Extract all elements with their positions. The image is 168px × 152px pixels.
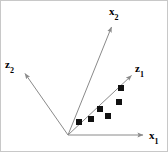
axis-label-x1-base: x: [149, 129, 155, 141]
data-point-marker: [97, 106, 103, 112]
axis-label-x2-base: x: [109, 5, 115, 17]
axis-label-z1: z1: [135, 63, 144, 77]
data-point-marker: [105, 113, 111, 119]
axis-label-z2: z2: [5, 59, 14, 73]
z2-axis-line: [25, 74, 68, 136]
data-point-marker: [118, 85, 124, 91]
z1-axis-line: [68, 76, 132, 136]
axis-label-z1-subscript: 1: [140, 70, 144, 79]
axis-label-x2: x2: [109, 6, 119, 20]
data-point-marker: [116, 99, 122, 105]
axis-label-z2-subscript: 2: [10, 66, 14, 75]
axis-label-x1-subscript: 1: [155, 137, 159, 146]
data-point-marker: [76, 119, 82, 125]
axis-lines-group: [25, 27, 143, 135]
data-point-marker: [88, 116, 94, 122]
vector-diagram-figure: x2 z2 z1 x1: [0, 0, 168, 152]
axis-label-x1: x1: [149, 130, 159, 144]
axis-label-x2-subscript: 2: [115, 13, 119, 22]
